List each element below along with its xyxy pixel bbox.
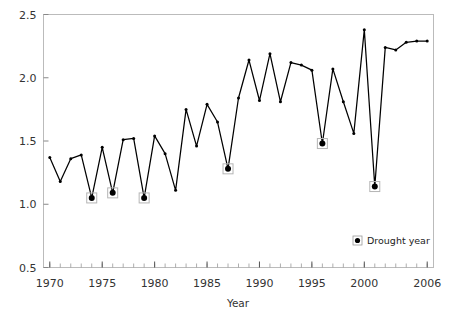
data-point [300, 64, 303, 67]
data-point [319, 141, 325, 147]
data-point [405, 41, 408, 44]
data-point-markers [48, 28, 428, 201]
y-axis-tick-label: 2.5 [19, 9, 37, 22]
data-point [132, 137, 135, 140]
x-axis-tick-label: 2000 [350, 277, 378, 290]
data-point [141, 195, 147, 201]
y-axis-ticks [44, 15, 49, 268]
data-point [384, 46, 387, 49]
x-axis-tick-label: 1980 [141, 277, 169, 290]
data-point [247, 59, 250, 62]
data-point [363, 28, 366, 31]
data-point [69, 157, 72, 160]
data-point [110, 190, 116, 196]
plot-frame [44, 15, 434, 268]
x-axis-title: Year [226, 297, 250, 309]
data-point [153, 134, 156, 137]
data-point [195, 145, 198, 148]
data-point [310, 69, 313, 72]
data-point [426, 40, 429, 43]
data-point [342, 100, 345, 103]
data-point [237, 96, 240, 99]
x-axis-tick-label: 1995 [298, 277, 326, 290]
y-axis-tick-label: 1.5 [19, 135, 37, 148]
data-point [206, 103, 209, 106]
x-axis-tick-label: 2006 [413, 277, 441, 290]
data-point [59, 180, 62, 183]
data-point [279, 100, 282, 103]
data-point [258, 99, 261, 102]
data-point [48, 156, 51, 159]
y-axis-tick-label: 1.0 [19, 198, 37, 211]
data-point [89, 195, 95, 201]
chart-legend: Drought year [353, 235, 430, 246]
x-axis-minor-ticks [50, 264, 427, 268]
data-line-series [50, 30, 427, 198]
chart-container: 0.51.01.52.02.5 197019751980198519901995… [0, 0, 449, 319]
data-point [268, 52, 271, 55]
y-axis-tick-labels: 0.51.01.52.02.5 [19, 9, 37, 275]
data-point [185, 108, 188, 111]
x-axis-tick-label: 1970 [36, 277, 64, 290]
data-point [394, 48, 397, 51]
drought-year-markers [87, 139, 380, 203]
data-point [80, 153, 83, 156]
x-axis-tick-label: 1975 [88, 277, 116, 290]
y-axis-tick-label: 2.0 [19, 72, 37, 85]
data-point [289, 61, 292, 64]
data-point [216, 121, 219, 124]
data-point [225, 166, 231, 172]
data-point [101, 146, 104, 149]
line-chart: 0.51.01.52.02.5 197019751980198519901995… [0, 0, 449, 319]
data-point [331, 67, 334, 70]
data-point [174, 189, 177, 192]
x-axis-tick-labels: 19701975198019851990199520002006 [36, 277, 441, 290]
x-axis-tick-label: 1990 [245, 277, 273, 290]
data-point [352, 132, 355, 135]
x-axis-tick-label: 1985 [193, 277, 221, 290]
y-axis-tick-label: 0.5 [19, 262, 37, 275]
data-point [415, 40, 418, 43]
data-point [122, 138, 125, 141]
data-point [372, 184, 378, 190]
data-point [164, 152, 167, 155]
legend-label-drought-year: Drought year [367, 235, 430, 246]
legend-marker-dot-icon [355, 238, 360, 243]
